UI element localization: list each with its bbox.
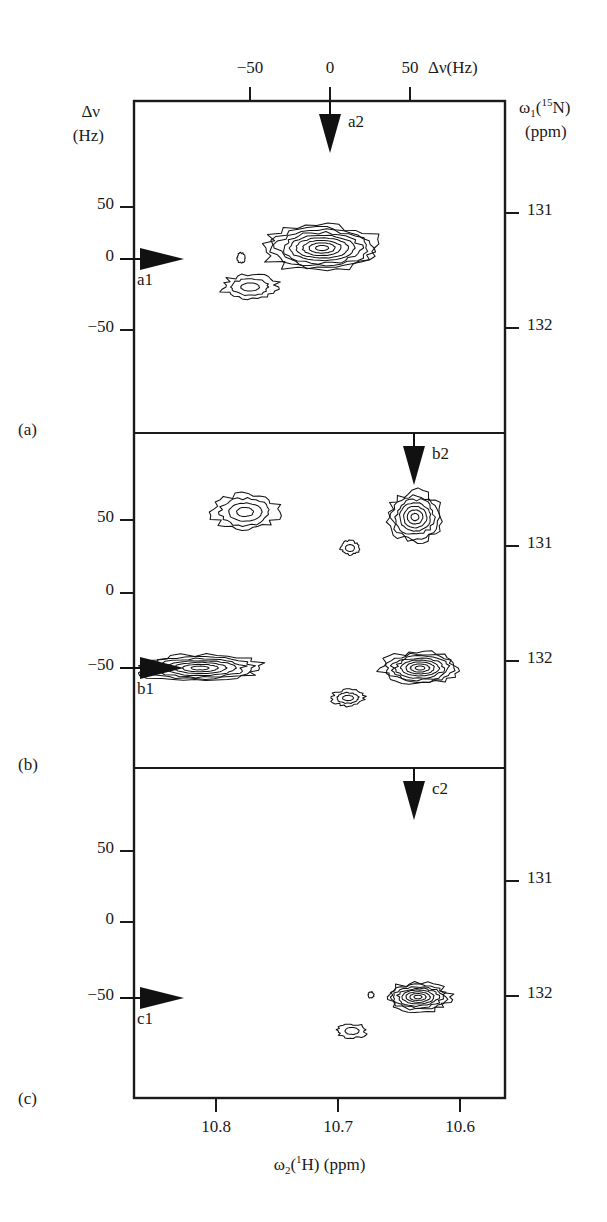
contour-ring-1 [346, 545, 355, 552]
contour-ring-3 [220, 274, 281, 300]
contour-ring-5 [395, 499, 436, 534]
contour-ring-5 [395, 658, 445, 678]
peak-peak-b-center-small [340, 540, 360, 556]
contour-ring-2 [336, 1024, 367, 1038]
left-axis-title-line2: (Hz) [73, 127, 104, 145]
peak-small-peak-a-left [237, 252, 246, 263]
peak-peak-b-lower-right [377, 651, 460, 685]
panel-b-left-tick-label-0: 0 [106, 581, 115, 599]
top-tick-label--50: −50 [237, 59, 264, 77]
marker-label-b1: b1 [137, 680, 154, 698]
right-axis-title-line2: (ppm) [525, 123, 567, 141]
panel-label-a: (a) [18, 421, 37, 439]
contour-ring-3 [331, 689, 367, 707]
spectrum-canvas [0, 0, 607, 1222]
marker-label-c1: c1 [137, 1010, 153, 1028]
peak-main-crosspeak-c [387, 982, 454, 1013]
peak-peak-b-lower-center-small [331, 689, 367, 707]
marker-arrow-a1 [140, 248, 184, 270]
panel-b-right-tick-label-131: 131 [527, 534, 553, 552]
marker-arrow-a2 [319, 114, 341, 153]
marker-arrow-b2 [403, 446, 425, 485]
contour-ring-5 [289, 235, 355, 260]
panel-b-left-tick-label--50: −50 [87, 656, 114, 674]
peak-small-peak-c-lower-left [336, 1024, 367, 1038]
contour-ring-1 [316, 245, 329, 250]
contour-ring-1 [415, 666, 425, 670]
marker-arrow-c1 [140, 987, 184, 1009]
bottom-axis-title: ω2(1H) (ppm) [274, 1154, 366, 1177]
contour-ring-1 [237, 508, 254, 517]
bottom-tick-label-10-6: 10.6 [445, 1118, 475, 1136]
peak-peak-b-upper-left [209, 492, 281, 531]
contour-ring-1 [411, 513, 419, 520]
panel-c-left-tick-label-50: 50 [97, 839, 114, 857]
contour-ring-2 [410, 994, 426, 1001]
peak-main-crosspeak-a [263, 223, 379, 271]
marker-label-a2: a2 [348, 113, 364, 131]
contour-ring-2 [337, 692, 359, 703]
contour-ring-1 [368, 992, 374, 999]
top-axis-title: Δν(Hz) [428, 59, 478, 77]
contour-ring-1 [191, 666, 209, 670]
contour-ring-1 [237, 252, 246, 263]
contour-ring-2 [407, 510, 423, 524]
contour-ring-2 [410, 664, 430, 672]
contour-ring-1 [414, 995, 422, 999]
contour-ring-3 [219, 498, 270, 527]
panel-c-left-tick-label-0: 0 [106, 910, 115, 928]
contour-ring-1 [241, 283, 260, 291]
peak-peak-b-upper-right [386, 488, 442, 544]
contour-ring-2 [183, 664, 219, 672]
panel-b-right-tick-label-132: 132 [527, 649, 553, 667]
top-tick-label-0: 0 [326, 59, 335, 77]
contour-ring-2 [229, 503, 263, 522]
panel-c-right-tick-label-132: 132 [527, 984, 553, 1002]
peak-satellite-peak-a-lower-left [220, 274, 281, 300]
bottom-tick-label-10-8: 10.8 [201, 1118, 231, 1136]
panel-b-left-tick-label-50: 50 [97, 508, 114, 526]
panel-a-left-tick-label-0: 0 [106, 247, 115, 265]
contour-ring-2 [309, 243, 335, 253]
top-tick-label-50: 50 [402, 59, 419, 77]
marker-label-c2: c2 [432, 780, 448, 798]
contour-ring-1 [343, 695, 354, 700]
contour-ring-6 [284, 232, 364, 265]
contour-ring-2 [231, 279, 269, 296]
panel-label-c: (c) [18, 1090, 37, 1108]
contour-ring-2 [340, 540, 360, 556]
marker-arrow-c2 [403, 781, 425, 820]
marker-label-a1: a1 [137, 271, 153, 289]
panel-c-left-tick-label--50: −50 [87, 986, 114, 1004]
panel-c-right-tick-label-131: 131 [527, 869, 553, 887]
panel-a-right-tick-label-131: 131 [527, 201, 553, 219]
left-axis-title-line1: Δν [81, 103, 100, 121]
contour-peaks [138, 223, 459, 1038]
bottom-tick-label-10-7: 10.7 [323, 1118, 353, 1136]
panel-label-b: (b) [18, 756, 38, 774]
right-axis-title-line1: ω1(15N) [519, 97, 570, 120]
panel-a-right-tick-label-132: 132 [527, 316, 553, 334]
contour-ring-1 [345, 1028, 359, 1035]
peak-trace-peak-c-left [368, 992, 374, 999]
nmr-figure: −50050Δν(Hz)Δν(Hz)ω1(15N)(ppm)10.810.710… [0, 0, 607, 1222]
panel-a-left-tick-label-50: 50 [97, 195, 114, 213]
marker-label-b2: b2 [432, 445, 449, 463]
peak-markers [120, 101, 425, 1009]
panel-a-left-tick-label--50: −50 [87, 318, 114, 336]
